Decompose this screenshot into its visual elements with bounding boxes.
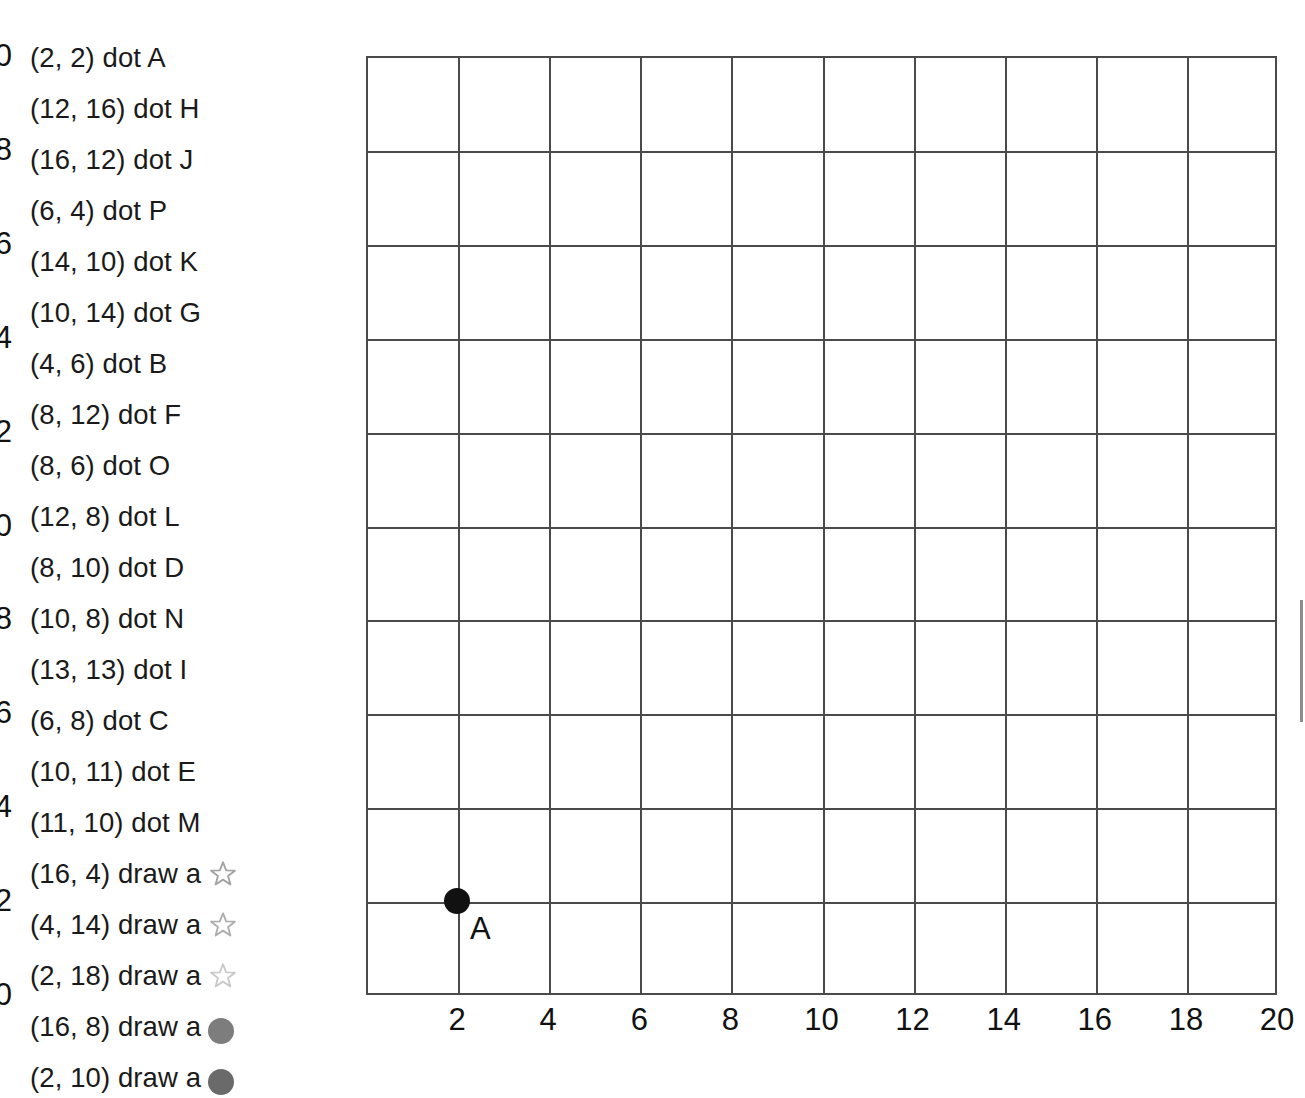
y-axis-tick-label: 18 xyxy=(0,132,12,168)
x-axis-tick-label: 8 xyxy=(722,1002,739,1038)
gridline-vertical xyxy=(731,58,733,993)
x-axis-tick-label: 12 xyxy=(895,1002,929,1038)
x-axis-tick-label: 4 xyxy=(540,1002,557,1038)
plot-point-label: A xyxy=(470,911,491,947)
gridline-vertical xyxy=(458,58,460,993)
y-axis-tick-label: 0 xyxy=(0,977,12,1013)
x-axis-tick-label: 16 xyxy=(1078,1002,1112,1038)
gridline-vertical xyxy=(640,58,642,993)
y-axis-tick-label: 20 xyxy=(0,38,12,74)
plot-area xyxy=(366,56,1277,995)
x-axis-tick-label: 6 xyxy=(631,1002,648,1038)
gridline-horizontal xyxy=(368,902,1275,904)
y-axis-tick-label: 16 xyxy=(0,226,12,262)
x-axis-tick-label: 2 xyxy=(448,1002,465,1038)
gridline-vertical xyxy=(914,58,916,993)
x-axis-tick-label: 10 xyxy=(804,1002,838,1038)
gridline-horizontal xyxy=(368,714,1275,716)
gridline-horizontal xyxy=(368,620,1275,622)
y-axis-tick-label: 6 xyxy=(0,695,12,731)
gridline-vertical xyxy=(1096,58,1098,993)
x-axis-tick-label: 18 xyxy=(1169,1002,1203,1038)
x-axis-tick-label: 14 xyxy=(986,1002,1020,1038)
gridline-horizontal xyxy=(368,433,1275,435)
gridline-horizontal xyxy=(368,527,1275,529)
gridline-horizontal xyxy=(368,245,1275,247)
y-axis-tick-label: 10 xyxy=(0,508,12,544)
plot-point-dot xyxy=(444,888,470,914)
gridline-horizontal xyxy=(368,339,1275,341)
y-axis-tick-label: 8 xyxy=(0,601,12,637)
gridline-horizontal xyxy=(368,151,1275,153)
y-axis-tick-label: 2 xyxy=(0,883,12,919)
gridline-vertical xyxy=(1187,58,1189,993)
gridline-horizontal xyxy=(368,808,1275,810)
coordinate-grid-chart: 02468101214161820 2468101214161820 A xyxy=(0,0,1305,1098)
y-axis-tick-label: 4 xyxy=(0,789,12,825)
gridline-vertical xyxy=(549,58,551,993)
y-axis-tick-label: 12 xyxy=(0,414,12,450)
gridline-vertical xyxy=(823,58,825,993)
scrollbar-artifact xyxy=(1300,600,1303,722)
gridline-vertical xyxy=(1005,58,1007,993)
x-axis-tick-label: 20 xyxy=(1260,1002,1294,1038)
y-axis-tick-label: 14 xyxy=(0,320,12,356)
